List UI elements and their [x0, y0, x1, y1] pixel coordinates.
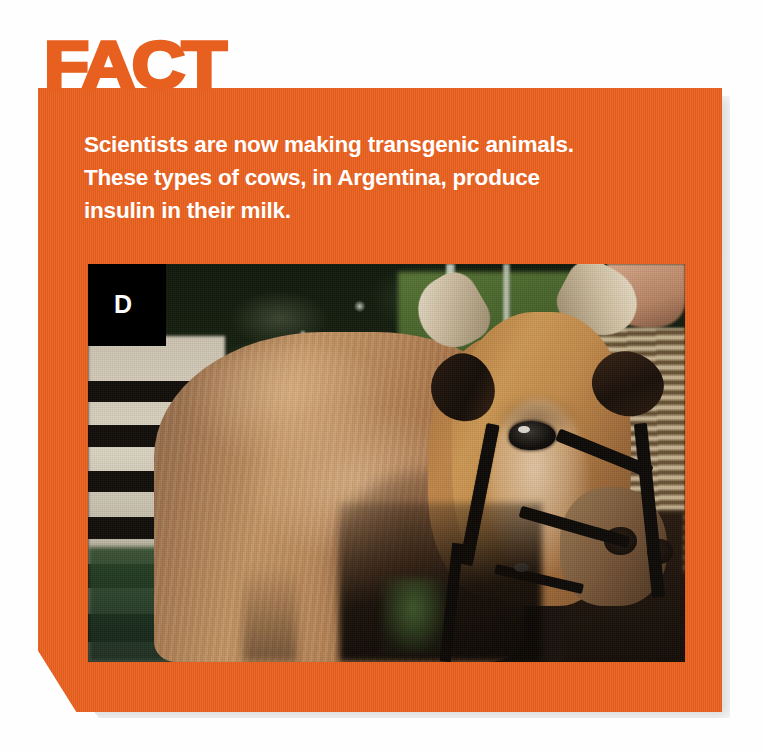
page-canvas: FACT	[0, 0, 763, 752]
fact-body-text: Scientists are now making transgenic ani…	[84, 128, 694, 227]
panel-letter-d: D	[114, 292, 132, 317]
cow-photo-inner: D	[88, 264, 685, 662]
cow-photo: D	[88, 264, 685, 662]
fact-kicker-wordmark: FACT	[44, 34, 224, 95]
fact-body-line-3: insulin in their milk.	[84, 194, 694, 227]
cow-eye	[509, 421, 556, 450]
fact-body-line-1: Scientists are now making transgenic ani…	[84, 128, 694, 161]
cow-foreleg	[243, 566, 297, 662]
photo-foreground-green-patch	[381, 578, 447, 654]
fact-body-line-2: These types of cows, in Argentina, produ…	[84, 161, 694, 194]
